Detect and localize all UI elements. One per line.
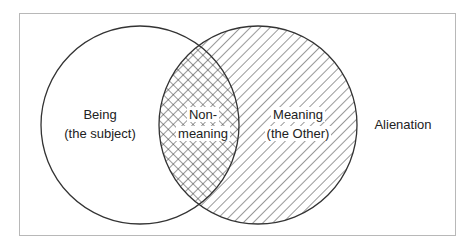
- meaning-title: Meaning: [271, 107, 325, 122]
- being-label: Being (the subject): [58, 105, 142, 143]
- alienation-label: Alienation: [370, 115, 436, 134]
- non-meaning-label: Non- meaning: [173, 105, 233, 143]
- meaning-label: Meaning (the Other): [262, 105, 334, 143]
- non-meaning-line1: Non-: [187, 107, 219, 122]
- meaning-subtitle: (the Other): [265, 126, 332, 141]
- being-subtitle: (the subject): [58, 124, 142, 143]
- being-title: Being: [58, 105, 142, 124]
- non-meaning-line2: meaning: [176, 126, 230, 141]
